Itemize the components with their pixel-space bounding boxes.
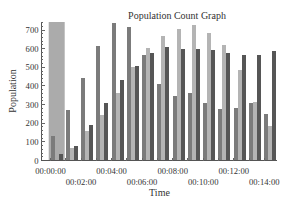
bar bbox=[142, 55, 146, 161]
x-tick-label: 00:04:00 bbox=[96, 166, 127, 176]
y-tick-label: 600 bbox=[26, 44, 39, 54]
population-count-chart: Population Count Graph 01002003004005006… bbox=[0, 0, 292, 206]
bar bbox=[131, 67, 135, 161]
bar bbox=[242, 55, 246, 160]
bar bbox=[222, 45, 226, 160]
bar bbox=[268, 126, 272, 160]
y-tick-label: 700 bbox=[26, 25, 39, 35]
y-tick-label: 100 bbox=[26, 137, 39, 147]
x-tick-label: 00:02:00 bbox=[66, 177, 97, 187]
bar bbox=[89, 125, 93, 160]
bar bbox=[165, 47, 169, 161]
bar bbox=[249, 103, 253, 161]
bar bbox=[218, 109, 222, 160]
bar bbox=[100, 115, 104, 160]
bar bbox=[253, 102, 257, 161]
bar bbox=[66, 110, 70, 160]
bar bbox=[211, 50, 215, 161]
y-axis-title: Population bbox=[7, 69, 18, 112]
bar-group[interactable] bbox=[142, 48, 154, 160]
bar bbox=[104, 103, 108, 161]
bar bbox=[203, 103, 207, 160]
bar bbox=[196, 49, 200, 161]
bar bbox=[150, 53, 154, 161]
bar bbox=[157, 84, 161, 161]
bar bbox=[81, 78, 85, 160]
bar bbox=[59, 154, 63, 161]
chart-title: Population Count Graph bbox=[128, 10, 226, 21]
bar bbox=[181, 49, 185, 161]
bar bbox=[192, 25, 196, 160]
bar bbox=[238, 70, 242, 161]
bar bbox=[51, 136, 55, 160]
y-tick-label: 500 bbox=[26, 62, 39, 72]
bar bbox=[135, 66, 139, 160]
x-tick-label: 00:08:00 bbox=[157, 166, 188, 176]
bar bbox=[120, 80, 124, 160]
bar bbox=[207, 33, 211, 161]
bar bbox=[173, 96, 177, 160]
bar bbox=[127, 27, 131, 161]
y-tick-label: 300 bbox=[26, 100, 39, 110]
bar bbox=[264, 114, 268, 160]
bar bbox=[112, 23, 116, 161]
bar bbox=[70, 148, 74, 160]
y-tick-label: 400 bbox=[26, 81, 39, 91]
bar bbox=[146, 48, 150, 160]
bar bbox=[74, 146, 78, 161]
x-tick-label: 00:12:00 bbox=[218, 166, 249, 176]
y-tick-label: 0 bbox=[34, 156, 38, 166]
bar bbox=[96, 46, 100, 160]
bar bbox=[257, 55, 261, 161]
bar bbox=[116, 93, 120, 161]
bar bbox=[177, 29, 181, 160]
x-tick-label: 00:10:00 bbox=[188, 177, 219, 187]
y-tick-label: 200 bbox=[26, 118, 39, 128]
x-tick-label: 00:06:00 bbox=[127, 177, 158, 187]
x-axis-title: Time bbox=[149, 187, 170, 198]
x-tick-label: 00:14:00 bbox=[249, 177, 280, 187]
bar bbox=[234, 108, 238, 161]
bar bbox=[85, 131, 89, 160]
bar bbox=[188, 93, 192, 161]
bar bbox=[226, 53, 230, 161]
bar bbox=[272, 51, 276, 160]
x-tick-label: 00:00:00 bbox=[35, 166, 66, 176]
bar bbox=[161, 36, 165, 160]
